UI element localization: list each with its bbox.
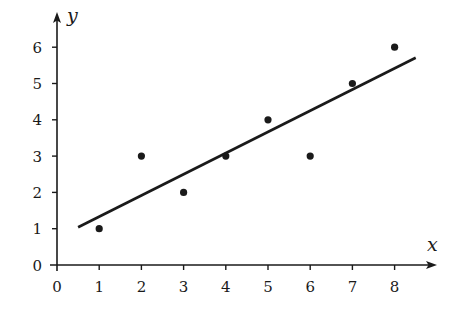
axes	[50, 12, 437, 271]
x-tick-label: 5	[263, 278, 273, 296]
y-axis-title: y	[66, 4, 78, 26]
scatter-chart: 0123456780123456 x y	[0, 0, 464, 319]
y-tick-label: 2	[32, 184, 42, 202]
data-point	[138, 153, 145, 160]
data-point	[222, 153, 229, 160]
y-tick-label: 4	[32, 111, 42, 129]
x-tick-label: 1	[94, 278, 104, 296]
x-tick-label: 3	[179, 278, 189, 296]
y-tick-label: 6	[32, 39, 42, 57]
data-point	[96, 225, 103, 232]
data-point	[180, 189, 187, 196]
y-tick-label: 0	[32, 257, 42, 275]
x-tick-label: 4	[221, 278, 231, 296]
data-point	[264, 116, 271, 123]
y-tick-label: 3	[32, 148, 42, 166]
y-tick-label: 1	[32, 220, 42, 238]
data-point	[349, 80, 356, 87]
x-tick-label: 7	[348, 278, 358, 296]
x-tick-label: 0	[52, 278, 62, 296]
x-axis-title: x	[427, 233, 438, 255]
data-point	[307, 153, 314, 160]
data-point	[391, 44, 398, 51]
fit-line	[78, 58, 416, 228]
best-fit-line	[78, 58, 416, 228]
x-tick-label: 6	[305, 278, 315, 296]
x-tick-label: 2	[137, 278, 147, 296]
ticks: 0123456780123456	[32, 39, 399, 296]
y-tick-label: 5	[32, 75, 42, 93]
x-tick-label: 8	[390, 278, 400, 296]
data-points	[96, 44, 399, 233]
